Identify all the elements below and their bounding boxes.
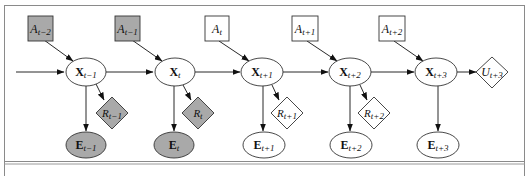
node-x-t: Xt [155,58,195,86]
node-e-t-plus-1: Et+1 [243,132,285,158]
action-nodes: At−2 At−1 At At+1 At+2 [28,16,405,41]
node-r-t-plus-2: Rt+2 [358,97,390,129]
evidence-nodes: Et−1 Et Et+1 Et+2 Et+3 [66,132,459,158]
node-r-t-minus-1: Rt−1 [96,97,128,129]
node-x-t-minus-1: Xt−1 [66,58,106,86]
node-r-t: Rt [182,97,214,129]
node-e-t-plus-2: Et+2 [330,132,372,158]
node-a-t-plus-2: At+2 [379,16,405,41]
node-a-t-minus-2: At−2 [28,16,53,41]
reward-nodes: Rt−1 Rt Rt+1 Rt+2 [96,97,390,129]
node-x-t-plus-3: Xt+3 [415,58,457,86]
node-r-t-plus-1: Rt+1 [271,97,303,129]
dynamic-decision-network-diagram: At−2 At−1 At At+1 At+2 Xt−1 Xt [0,0,529,176]
node-e-t-minus-1: Et−1 [66,132,106,158]
node-e-t-plus-3: Et+3 [417,132,459,158]
node-a-t-minus-1: At−1 [115,16,140,41]
node-x-t-plus-1: Xt+1 [241,58,283,86]
node-a-t: At [205,16,229,41]
node-e-t: Et [154,132,194,158]
node-x-t-plus-2: Xt+2 [329,58,371,86]
node-u-t-plus-3: Ut+3 [476,57,508,88]
node-a-t-plus-1: At+1 [292,16,318,41]
